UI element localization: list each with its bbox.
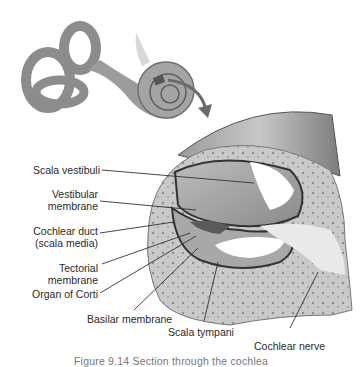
label-organ-of-corti: Organ of Corti — [10, 288, 98, 300]
label-vestibular-membrane-line1: Vestibular — [20, 188, 98, 200]
figure-caption: Figure 9.14 Section through the cochlea — [74, 355, 268, 367]
label-scala-vestibuli: Scala vestibuli — [20, 164, 100, 176]
label-cochlear-duct-line2: (scala media) — [10, 237, 98, 249]
cochlea-cross-section — [148, 112, 353, 325]
label-tectorial-membrane-line1: Tectorial — [20, 262, 98, 274]
label-basilar-membrane: Basilar membrane — [87, 313, 172, 325]
label-cochlear-nerve: Cochlear nerve — [254, 340, 325, 352]
label-vestibular-membrane-line2: membrane — [20, 200, 98, 212]
label-tectorial-membrane-line2: membrane — [20, 274, 98, 286]
label-scala-tympani: Scala tympani — [168, 326, 234, 338]
label-cochlear-duct-line1: Cochlear duct — [10, 225, 98, 237]
inner-ear-overview — [26, 26, 212, 119]
